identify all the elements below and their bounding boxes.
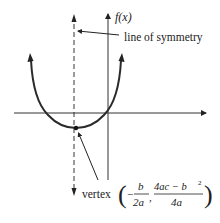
vertex-point [74,126,78,130]
symmetry-pointer [78,31,119,35]
vertex-comma: , [149,191,152,203]
vertex-open-paren: ( [118,180,127,209]
parabola-diagram: f(x) line of symmetry vertex ( − b 2a , … [0,0,220,223]
symmetry-arrow-top-icon [72,14,77,22]
parabola-arrow-right-icon [119,53,125,62]
parabola-arrow-left-icon [28,53,34,62]
symmetry-arrow-bottom-icon [72,188,77,196]
y-axis-label: f(x) [115,10,132,24]
vertex-y-denominator: 4a [171,196,183,208]
vertex-y-numerator: 4ac − b [154,181,187,192]
symmetry-label: line of symmetry [124,31,203,44]
vertex-y-exponent: 2 [198,179,202,187]
vertex-pointer [79,133,99,180]
vertex-x-denominator: 2a [133,196,145,208]
diagram-canvas: f(x) line of symmetry vertex ( − b 2a , … [0,0,220,223]
vertex-word: vertex [82,188,111,200]
vertex-close-paren: ) [204,180,213,209]
vertex-x-numerator: b [138,180,144,192]
